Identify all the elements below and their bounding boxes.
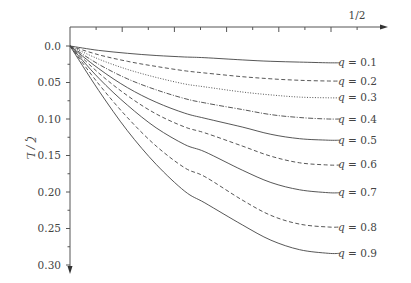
y-tick-label: 0.15 [38, 149, 61, 161]
y-tick-label: 0.05 [38, 76, 61, 88]
curve-q-5 [70, 46, 340, 140]
y-axis-arrow-icon [68, 266, 73, 274]
y-tick-label: 0.25 [38, 222, 61, 234]
deflection-chart: 0.00.050.100.150.200.250.30 1/2 q = 0.1q… [0, 0, 411, 283]
legend-label-q: q = 0.7 [338, 186, 377, 198]
y-tick-label: 0.10 [38, 113, 61, 125]
legend-label-q: q = 0.9 [338, 247, 377, 259]
curve-q-7 [70, 46, 340, 193]
curves [70, 46, 340, 254]
legend-label-q: q = 0.3 [338, 91, 377, 103]
legend-label-q: q = 0.5 [338, 134, 377, 146]
legend-label-q: q = 0.4 [338, 113, 377, 125]
x-axis-arrow-icon [380, 25, 388, 30]
legend-label-q: q = 0.1 [338, 56, 377, 68]
y-axis-label: ζ / L [25, 137, 37, 160]
y-tick-label: 0.20 [38, 186, 61, 198]
y-tick-label: 0.0 [44, 40, 61, 52]
y-tick-label: 0.30 [38, 259, 61, 271]
x-axis-ticks: 1/2 [96, 9, 365, 32]
inline-legend: q = 0.1q = 0.2q = 0.3q = 0.4q = 0.5q = 0… [338, 56, 377, 259]
x-tick-label: 1/2 [349, 9, 366, 21]
legend-label-q: q = 0.8 [338, 221, 377, 233]
legend-label-q: q = 0.6 [338, 158, 377, 170]
curve-q-1 [70, 46, 340, 63]
y-axis-ticks: 0.00.050.100.150.200.250.30 [38, 40, 70, 271]
legend-label-q: q = 0.2 [338, 75, 377, 87]
